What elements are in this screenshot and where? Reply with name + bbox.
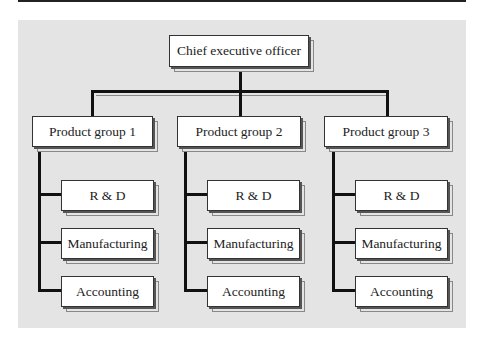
g2-rd-box: R & D [207,180,300,211]
product-group-2-box: Product group 2 [177,116,301,147]
g1-manufacturing-box: Manufacturing [61,228,154,259]
g2-accounting-box: Accounting [207,276,300,307]
tick-1b [38,241,62,244]
drop-3 [386,90,389,116]
g1-accounting-box: Accounting [61,276,154,307]
tick-2a [184,193,208,196]
g3-rd-box: R & D [355,180,448,211]
tick-3b [332,241,356,244]
branch-2 [184,148,187,292]
tick-3c [332,289,356,292]
tick-2b [184,241,208,244]
product-group-1-box: Product group 1 [32,116,153,147]
ceo-stem [239,66,242,93]
g3-manufacturing-box: Manufacturing [355,228,448,259]
product-group-3-box: Product group 3 [324,116,448,147]
tick-1a [38,193,62,196]
tick-1c [38,289,62,292]
ceo-box: Chief executive officer [169,35,309,67]
drop-2 [239,90,242,116]
top-bar-shadow [96,95,388,96]
g3-accounting-box: Accounting [355,276,448,307]
branch-1 [38,148,41,292]
tick-2c [184,289,208,292]
top-rule [18,0,466,2]
tick-3a [332,193,356,196]
drop-1 [91,90,94,116]
g2-manufacturing-box: Manufacturing [207,228,300,259]
g1-rd-box: R & D [61,180,154,211]
branch-3 [332,148,335,292]
